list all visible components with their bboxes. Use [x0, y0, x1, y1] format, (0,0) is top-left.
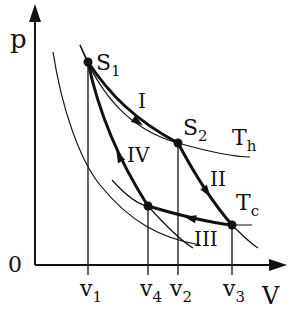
- arrow-III-icon: [183, 213, 196, 223]
- state-point-s2: [174, 139, 183, 148]
- label-tc: Tc: [236, 190, 259, 220]
- label-s2: S2: [183, 115, 208, 145]
- origin-label: 0: [8, 252, 22, 277]
- label-v4: v4: [139, 276, 162, 306]
- state-point-s4: [144, 202, 153, 211]
- label-v1: v1: [79, 276, 102, 306]
- y-axis-label: p: [10, 24, 27, 54]
- isotherm-tc: [112, 180, 252, 225]
- pv-diagram: p 0 V S1 S2 Th Tc I II III IV v1 v4 v2 v…: [0, 0, 293, 312]
- label-process-IV: IV: [127, 143, 150, 167]
- adiabat-extension-right: [232, 225, 258, 248]
- x-axis-arrow-icon: [269, 259, 287, 271]
- label-process-II: II: [210, 167, 226, 191]
- process-IV-path: [88, 62, 148, 206]
- label-process-I: I: [138, 89, 146, 113]
- state-point-s1: [84, 58, 93, 67]
- label-th: Th: [232, 125, 257, 155]
- y-axis-arrow-icon: [29, 4, 41, 22]
- x-axis-label: V: [261, 282, 280, 310]
- state-point-s3: [228, 221, 237, 230]
- label-s1: S1: [96, 50, 121, 80]
- label-v3: v3: [222, 276, 245, 306]
- label-v2: v2: [169, 276, 192, 306]
- label-process-III: III: [194, 227, 218, 251]
